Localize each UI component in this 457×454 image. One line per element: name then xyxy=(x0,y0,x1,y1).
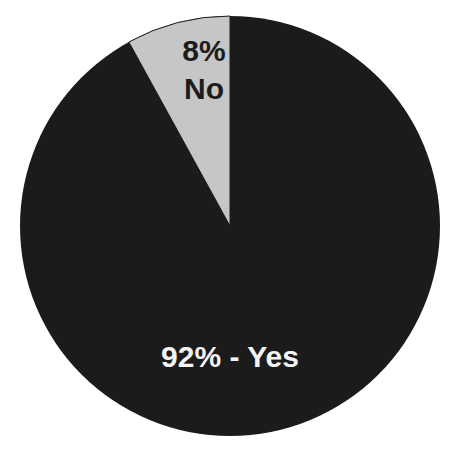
pie-chart xyxy=(0,0,457,454)
no-name-label: No xyxy=(164,72,244,106)
no-percent-label: 8% xyxy=(164,34,244,68)
yes-label: 92% - Yes xyxy=(130,340,330,374)
